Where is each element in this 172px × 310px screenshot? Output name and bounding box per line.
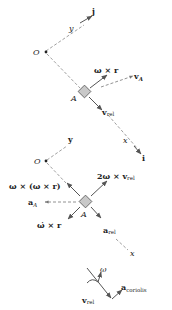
velocity-rel-label: vrel	[101, 107, 115, 117]
omega-cross-r-arrow	[90, 75, 107, 88]
slider-block-a	[79, 195, 92, 208]
point-a-label: A	[70, 94, 77, 103]
coriolis-detail: ω acoriolis vrel	[81, 265, 147, 305]
coriolis-accel-label: 2ω × vrel	[97, 171, 135, 181]
x-axis-line-lower	[116, 239, 128, 250]
velocity-panel: j y O x i A ω × r vA vrel	[33, 6, 145, 163]
accel-rel-arrow	[91, 207, 101, 218]
origin-point	[45, 160, 48, 163]
a-coriolis-label: acoriolis	[121, 282, 147, 293]
slider-block-a	[78, 85, 91, 98]
x-axis-label: x	[123, 136, 128, 145]
acceleration-panel: y O A ω × (ω × r) 2ω × vrel aA ω̇ × r ar…	[9, 134, 135, 258]
unit-vector-i-label: i	[142, 153, 145, 163]
accel-a-label: aA	[28, 197, 37, 208]
coriolis-accel-arrow	[91, 181, 107, 196]
v-rel-arrow	[87, 268, 111, 298]
origin-label: O	[34, 157, 41, 166]
origin-label: O	[33, 48, 40, 57]
unit-vector-j-arrow	[80, 16, 92, 23]
unit-vector-i-arrow	[134, 146, 141, 154]
y-axis-label: y	[67, 134, 73, 144]
x-axis-line-upper	[47, 54, 80, 88]
velocity-a-arrow	[101, 76, 133, 87]
velocity-rel-arrow	[89, 97, 102, 110]
point-a-label: A	[80, 210, 87, 219]
centripetal-accel-arrow	[67, 183, 80, 196]
origin-point	[45, 51, 48, 54]
v-rel-label: vrel	[81, 295, 95, 305]
angular-accel-label: ω̇ × r	[37, 220, 62, 230]
y-axis-label: y	[68, 24, 74, 33]
angular-accel-arrow	[68, 207, 80, 219]
y-axis-line	[46, 25, 84, 51]
velocity-a-label: vA	[133, 71, 143, 82]
y-axis-line	[47, 146, 67, 160]
coriolis-diagram: j y O x i A ω × r vA vrel y O A	[0, 0, 172, 310]
x-axis-line-upper	[47, 163, 66, 183]
omega-cross-r-label: ω × r	[94, 65, 119, 75]
unit-vector-j-label: j	[91, 6, 95, 16]
accel-rel-label: arel	[103, 225, 116, 235]
centripetal-accel-label: ω × (ω × r)	[9, 181, 61, 191]
omega-label: ω	[100, 265, 107, 274]
x-axis-label: x	[130, 249, 135, 258]
